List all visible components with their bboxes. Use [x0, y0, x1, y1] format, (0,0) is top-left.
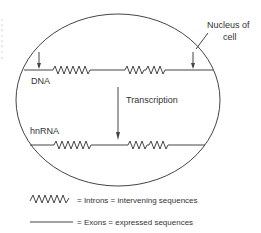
dna-label: DNA [31, 76, 50, 86]
dna-strand [24, 66, 213, 74]
dna-left-arrow [37, 52, 41, 69]
nucleus-label-line2: cell [223, 32, 237, 42]
transcription-diagram: Nucleus of cell DNA Transcription hnRNA … [0, 0, 261, 233]
legend: = Introns = intervening sequences = Exon… [30, 195, 198, 227]
legend-intron-symbol [30, 195, 69, 203]
legend-exons-text: = Exons = expressed sequences [77, 218, 193, 227]
dna-right-arrow [191, 52, 195, 69]
nucleus-pointer [196, 33, 208, 49]
hnrna-strand [30, 141, 205, 149]
hnrna-label: hnRNA [30, 126, 59, 136]
transcription-arrow [116, 87, 120, 140]
edge-dots [1, 19, 2, 58]
legend-introns-text: = Introns = intervening sequences [77, 196, 198, 205]
transcription-label: Transcription [126, 95, 178, 105]
nucleus-label: Nucleus of [207, 20, 250, 30]
